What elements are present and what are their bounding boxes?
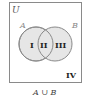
venn-diagram: U A B I II III IV A ∪ B — [0, 0, 91, 101]
region-iv-label: IV — [66, 70, 77, 80]
set-b-label: B — [71, 21, 78, 30]
region-iii-label: III — [55, 40, 66, 50]
region-i-label: I — [30, 40, 34, 50]
set-a-label: A — [19, 21, 26, 30]
universe-label: U — [12, 5, 20, 15]
caption: A ∪ B — [32, 88, 57, 97]
region-ii-label: II — [40, 40, 48, 50]
